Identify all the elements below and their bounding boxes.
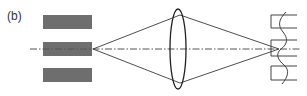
slit-top — [43, 15, 92, 29]
slit-bottom — [43, 68, 92, 82]
sine-wave — [278, 12, 288, 84]
diagram-canvas — [0, 0, 307, 96]
optical-diagram: (b) — [0, 0, 307, 96]
